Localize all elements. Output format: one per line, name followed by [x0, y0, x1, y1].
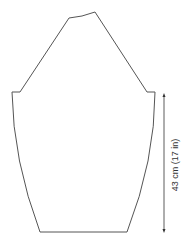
measurement-arrow — [163, 93, 166, 233]
length-measurement-label: 43 cm (17 in) — [170, 139, 180, 192]
sleeve-outline — [12, 12, 155, 232]
sleeve-diagram — [0, 0, 185, 236]
